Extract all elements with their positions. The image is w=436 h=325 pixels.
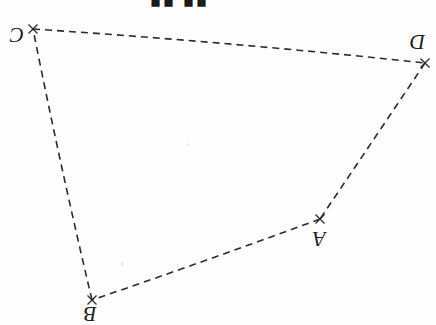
edge-b-c <box>33 29 92 300</box>
scan-speck <box>187 143 190 146</box>
edges-group <box>33 29 425 300</box>
vertex-label-d: D <box>410 31 425 52</box>
figure-page: ▮▮ ▮▮ ABCD <box>0 0 436 325</box>
edge-d-a <box>320 63 425 219</box>
edge-a-b <box>92 219 320 300</box>
vertex-markers-group <box>29 25 430 305</box>
vertex-label-b: B <box>84 303 97 324</box>
scan-speck <box>121 262 124 266</box>
edge-c-d <box>33 29 425 63</box>
vertex-marker-a <box>316 215 325 224</box>
vertex-label-a: A <box>313 228 326 249</box>
vertex-label-c: C <box>10 24 24 45</box>
quadrilateral-diagram <box>0 0 436 325</box>
